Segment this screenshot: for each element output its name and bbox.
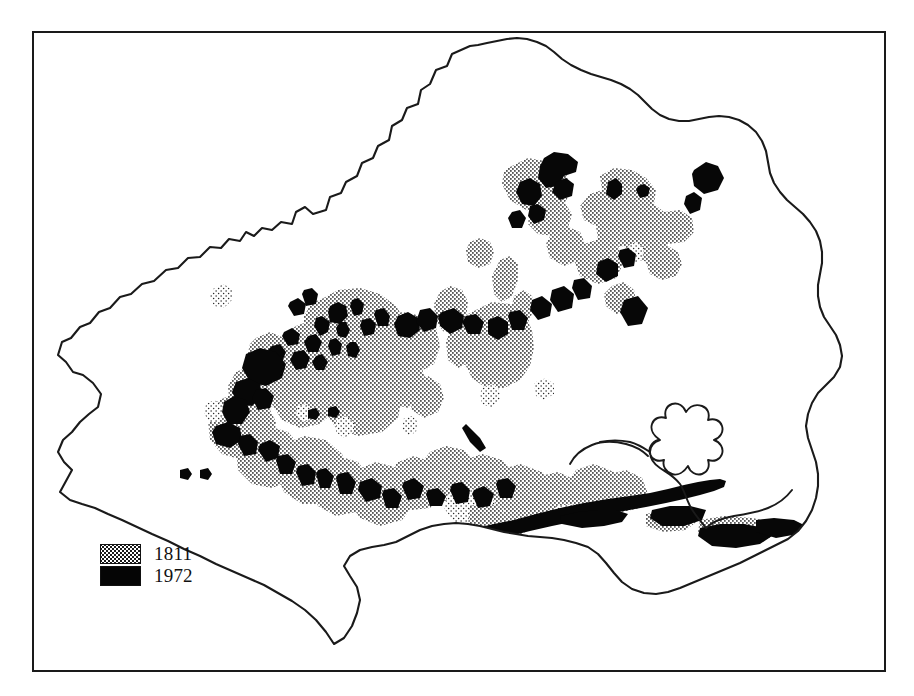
legend-item-1972: 1972 [100,565,193,586]
legend-swatch-stipple-icon [100,544,141,564]
map-legend: 1811 1972 [100,543,290,587]
legend-swatch-solid-icon [100,566,141,586]
legend-label-1811: 1811 [154,544,192,564]
map-graphic [0,0,914,696]
figure-caption [32,684,886,696]
figure-root: 1811 1972 [0,0,914,696]
legend-item-1811: 1811 [100,543,192,564]
legend-label-1972: 1972 [154,566,193,586]
